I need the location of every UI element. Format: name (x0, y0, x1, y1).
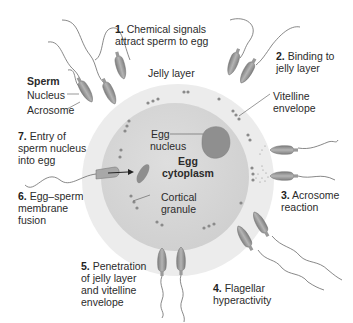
step-3-number: 3. (281, 189, 290, 201)
step-4-number: 4. (213, 282, 222, 294)
step-7-line2: sperm nucleus (18, 142, 86, 154)
step-1-label: 1. Chemical signals (115, 23, 206, 35)
step-7-number: 7. (18, 130, 27, 142)
step-1-line2: attract sperm to egg (115, 35, 208, 47)
step-7-line1: Entry of (30, 130, 66, 142)
step-5-line2: of jelly layer (81, 272, 136, 284)
step-3-line1: Acrosome (292, 189, 339, 201)
step-6-line3: fusion (18, 214, 46, 226)
sperm-legend-title: Sperm (27, 75, 60, 87)
step-6-line1: Egg–sperm (30, 190, 84, 202)
step-3-label: 3. Acrosome (281, 189, 339, 201)
step-6-number: 6. (18, 190, 27, 202)
egg-nucleus-label-line2: nucleus (150, 140, 186, 152)
egg-nucleus (202, 127, 230, 159)
step-2-line2: jelly layer (276, 62, 320, 74)
step-2-label: 2. Binding to (276, 50, 334, 62)
step-5-number: 5. (81, 260, 90, 272)
step-5-line3: and vitelline (81, 284, 136, 296)
step-5-line4: envelope (81, 296, 124, 308)
step-2-number: 2. (276, 50, 285, 62)
egg-cytoplasm-label-line1: Egg (178, 155, 198, 167)
step-6-line2: membrane (18, 202, 68, 214)
sperm-egg-interaction-diagram: Sperm Nucleus Acrosome Jelly layer Vitel… (0, 0, 353, 323)
step-4-line2: hyperactivity (213, 294, 271, 306)
vitelline-envelope-label-line2: envelope (273, 102, 316, 114)
step-5-label: 5. Penetration (81, 260, 146, 272)
vitelline-envelope-label-line1: Vitelline (273, 90, 310, 102)
step-2-line1: Binding to (288, 50, 335, 62)
step-3-line2: reaction (281, 201, 318, 213)
step-5-line1: Penetration (93, 260, 147, 272)
step-4-line1: Flagellar (225, 282, 265, 294)
jelly-layer-label: Jelly layer (148, 67, 195, 79)
egg-cytoplasm-label-line2: cytoplasm (162, 167, 214, 179)
step-1-line1: Chemical signals (127, 23, 206, 35)
sperm-acrosome-label: Acrosome (27, 104, 74, 116)
step-1-number: 1. (115, 23, 124, 35)
egg-nucleus-label-line1: Egg (151, 128, 170, 140)
step-7-label: 7. Entry of (18, 130, 66, 142)
cortical-granule-label-line1: Cortical (161, 191, 197, 203)
step-4-label: 4. Flagellar (213, 282, 265, 294)
step-7-line3: into egg (18, 154, 55, 166)
sperm-nucleus-label: Nucleus (27, 89, 65, 101)
step-6-label: 6. Egg–sperm (18, 190, 83, 202)
cortical-granule-label-line2: granule (161, 203, 196, 215)
